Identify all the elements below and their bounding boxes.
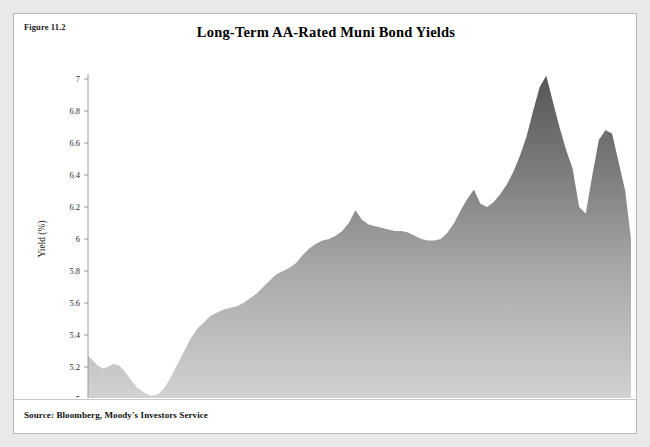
- y-tick-label: 5.4: [69, 330, 80, 340]
- chart-plot: 55.25.45.65.866.26.46.66.87 Dec-1993Feb-…: [14, 14, 638, 398]
- area-series-fill: [88, 76, 631, 398]
- y-tick-label: 5: [76, 394, 80, 398]
- y-tick-label: 6.6: [69, 138, 80, 148]
- y-tick-label: 5.8: [69, 266, 80, 276]
- y-tick-label: 5.2: [69, 362, 80, 372]
- y-tick-label: 5.6: [69, 298, 80, 308]
- page-background: Figure 11.2 Long-Term AA-Rated Muni Bond…: [0, 0, 650, 447]
- y-tick-label: 7: [76, 74, 80, 84]
- source-divider: [14, 399, 636, 400]
- y-axis-title: Yield (%): [37, 220, 48, 257]
- source-note: Source: Bloomberg, Moody's Investors Ser…: [24, 410, 208, 420]
- y-tick-label: 6.2: [69, 202, 80, 212]
- figure-card: Figure 11.2 Long-Term AA-Rated Muni Bond…: [13, 13, 637, 434]
- y-tick-label: 6: [76, 234, 80, 244]
- y-axis-ticks: 55.25.45.65.866.26.46.66.87: [69, 74, 88, 398]
- y-tick-label: 6.8: [69, 106, 80, 116]
- y-tick-label: 6.4: [69, 170, 80, 180]
